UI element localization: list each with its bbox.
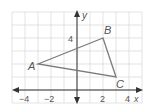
vertex-label-c: C xyxy=(116,78,124,90)
x-axis-label: x xyxy=(133,94,139,104)
y-tick-4: 4 xyxy=(68,34,73,44)
x-tick-4: 4 xyxy=(125,94,130,104)
coordinate-plane: y x −4 −2 2 4 4 A B C xyxy=(0,0,150,112)
y-axis-up-arrow-icon xyxy=(74,10,80,17)
vertex-label-b: B xyxy=(104,24,111,36)
y-axis-label: y xyxy=(81,10,88,21)
vertex-label-a: A xyxy=(27,60,35,72)
x-tick-neg4: −4 xyxy=(19,94,29,104)
x-axis-left-arrow-icon xyxy=(12,87,19,93)
x-tick-neg2: −2 xyxy=(44,94,54,104)
x-tick-2: 2 xyxy=(100,94,105,104)
